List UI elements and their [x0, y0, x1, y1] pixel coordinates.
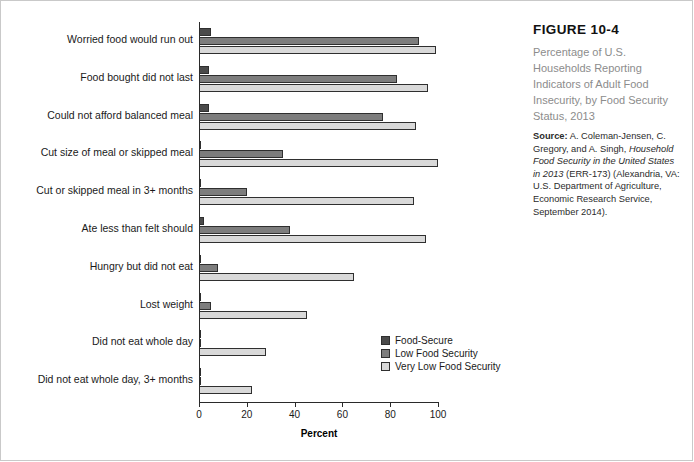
legend-label: Food-Secure: [395, 335, 453, 346]
bar-2: [199, 386, 252, 394]
category-label: Could not afford balanced meal: [3, 109, 193, 121]
bar-group: [199, 173, 438, 211]
category-label: Hungry but did not eat: [3, 260, 193, 272]
legend-item: Low Food Security: [381, 348, 501, 359]
x-tick-label: 100: [430, 409, 447, 420]
bar-2: [199, 311, 307, 319]
legend-label: Very Low Food Security: [395, 361, 501, 372]
category-label: Did not eat whole day, 3+ months: [3, 373, 193, 385]
category-label: Food bought did not last: [3, 71, 193, 83]
x-axis-title: Percent: [199, 428, 439, 439]
x-tick: [247, 402, 248, 407]
bar-1: [199, 226, 290, 234]
figure-10-4: Worried food would run outFood bought di…: [0, 0, 694, 462]
bar-0: [199, 66, 209, 74]
bar-0: [199, 104, 209, 112]
bar-1: [199, 113, 383, 121]
bar-2: [199, 84, 428, 92]
bar-group: [199, 22, 438, 60]
bar-group: [199, 249, 438, 287]
category-axis-labels: Worried food would run outFood bought di…: [0, 22, 193, 402]
bar-group: [199, 98, 438, 136]
x-axis-line: [199, 402, 439, 403]
legend-swatch-icon: [381, 336, 390, 345]
legend-item: Food-Secure: [381, 335, 501, 346]
bar-2: [199, 197, 414, 205]
legend-label: Low Food Security: [395, 348, 478, 359]
x-tick: [199, 402, 200, 407]
bar-1: [199, 150, 283, 158]
x-tick: [390, 402, 391, 407]
bar-group: [199, 60, 438, 98]
legend-swatch-icon: [381, 349, 390, 358]
x-tick-label: 80: [385, 409, 396, 420]
bar-group: [199, 287, 438, 325]
legend-swatch-icon: [381, 362, 390, 371]
source-label: Source:: [533, 131, 568, 141]
figure-caption: FIGURE 10-4 Percentage of U.S. Household…: [533, 22, 681, 218]
category-label: Did not eat whole day: [3, 335, 193, 347]
x-tick-label: 60: [337, 409, 348, 420]
bar-1: [199, 75, 397, 83]
category-label: Cut or skipped meal in 3+ months: [3, 184, 193, 196]
legend-item: Very Low Food Security: [381, 361, 501, 372]
x-tick-label: 20: [241, 409, 252, 420]
bar-0: [199, 28, 211, 36]
bar-1: [199, 188, 247, 196]
category-label: Lost weight: [3, 298, 193, 310]
y-axis-line: [199, 22, 200, 402]
bar-2: [199, 122, 416, 130]
bar-2: [199, 159, 438, 167]
bar-2: [199, 348, 266, 356]
bar-group: [199, 135, 438, 173]
bar-chart: Worried food would run outFood bought di…: [0, 0, 520, 462]
bar-1: [199, 264, 218, 272]
category-label: Ate less than felt should: [3, 222, 193, 234]
bar-group: [199, 211, 438, 249]
figure-title: Percentage of U.S. Households Reporting …: [533, 44, 681, 124]
bar-1: [199, 302, 211, 310]
chart-legend: Food-SecureLow Food SecurityVery Low Foo…: [381, 335, 501, 374]
bar-2: [199, 273, 354, 281]
bar-2: [199, 46, 436, 54]
category-label: Cut size of meal or skipped meal: [3, 146, 193, 158]
x-tick-label: 40: [289, 409, 300, 420]
figure-number: FIGURE 10-4: [533, 22, 681, 37]
bar-2: [199, 235, 426, 243]
x-tick: [438, 402, 439, 407]
x-tick: [342, 402, 343, 407]
x-tick-label: 0: [196, 409, 202, 420]
bar-1: [199, 37, 419, 45]
category-label: Worried food would run out: [3, 33, 193, 45]
x-tick: [295, 402, 296, 407]
figure-source: Source: A. Coleman-Jensen, C. Gregory, a…: [533, 130, 681, 218]
